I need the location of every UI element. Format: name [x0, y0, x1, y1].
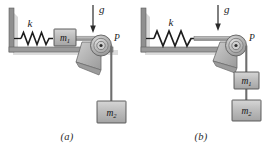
gravity-arrow-b	[215, 5, 221, 31]
block-m2-a: m2	[97, 101, 126, 123]
physics-figure: k m1 g	[0, 0, 268, 148]
panel-b: k g P	[134, 0, 268, 148]
pulley-label-b: P	[248, 33, 255, 43]
spring-constant-label-a: k	[28, 17, 34, 29]
panel-b-caption: (b)	[134, 131, 268, 142]
spring-constant-label-b: k	[169, 16, 175, 28]
wall-support	[141, 8, 226, 52]
panel-a: k m1 g	[0, 0, 134, 148]
panel-a-caption: (a)	[0, 131, 134, 142]
block-m1-b: m1	[234, 72, 259, 89]
gravity-arrow-a	[90, 5, 96, 33]
block-m1-a: m1	[54, 29, 76, 46]
block-m2-b: m2	[232, 100, 261, 121]
pulley-label-a: P	[113, 33, 120, 43]
gravity-label-a: g	[99, 3, 105, 15]
block-m1-a-sub: 1	[67, 37, 70, 44]
spring	[146, 31, 195, 46]
gravity-label-b: g	[224, 3, 230, 15]
pulley-b	[226, 35, 247, 56]
block-m1-b-sub: 1	[248, 80, 251, 87]
pulley-a	[91, 35, 112, 56]
spring	[14, 33, 53, 45]
